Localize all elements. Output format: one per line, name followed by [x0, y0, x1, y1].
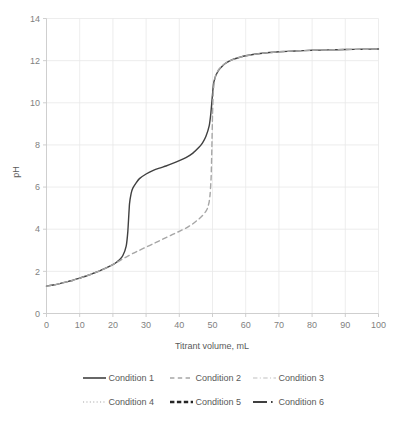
x-axis-tick-label: 60: [241, 320, 251, 330]
x-axis-tick-label: 70: [274, 320, 284, 330]
legend-item-condition-2[interactable]: Condition 2: [170, 373, 241, 383]
legend-label: Condition 6: [279, 397, 325, 407]
legend-label: Condition 2: [196, 373, 242, 383]
y-axis-tick-label: 10: [30, 98, 40, 108]
x-axis-tick-label: 20: [108, 320, 118, 330]
y-axis-tick-label: 6: [35, 182, 40, 192]
legend-label: Condition 1: [109, 373, 155, 383]
chart-canvas: 02468101214 0102030405060708090100 Titra…: [0, 0, 402, 421]
legend-label: Condition 4: [109, 397, 155, 407]
x-axis-tick-label: 80: [307, 320, 317, 330]
y-axis-tick-label: 0: [35, 309, 40, 319]
x-axis-tick-labels: 0102030405060708090100: [44, 320, 386, 330]
x-axis-tick-label: 90: [340, 320, 350, 330]
legend-item-condition-3[interactable]: Condition 3: [253, 373, 324, 383]
x-axis-title: Titrant volume, mL: [175, 341, 249, 351]
y-axis-title: pH: [11, 166, 21, 178]
y-axis-tick-label: 2: [35, 267, 40, 277]
x-axis-tick-label: 10: [75, 320, 85, 330]
plot-gridlines: [47, 19, 379, 314]
x-axis-tick-label: 0: [44, 320, 49, 330]
legend-label: Condition 5: [196, 397, 242, 407]
x-axis-tick-label: 30: [141, 320, 151, 330]
y-axis-tick-label: 14: [30, 14, 40, 24]
x-axis-tick-label: 50: [207, 320, 217, 330]
x-axis-tick-label: 40: [174, 320, 184, 330]
legend-item-condition-5[interactable]: Condition 5: [170, 397, 241, 407]
legend-item-condition-1[interactable]: Condition 1: [83, 373, 154, 383]
titration-curve-chart: 02468101214 0102030405060708090100 Titra…: [0, 0, 402, 421]
chart-legend: Condition 1Condition 2Condition 3Conditi…: [83, 373, 324, 407]
legend-item-condition-6[interactable]: Condition 6: [253, 397, 324, 407]
y-axis-tick-label: 8: [35, 140, 40, 150]
legend-label: Condition 3: [279, 373, 325, 383]
y-axis-tick-label: 12: [30, 56, 40, 66]
x-axis-tick-label: 100: [371, 320, 386, 330]
legend-item-condition-4[interactable]: Condition 4: [83, 397, 154, 407]
y-axis-tick-label: 4: [35, 224, 40, 234]
y-axis-tick-labels: 02468101214: [30, 14, 40, 319]
